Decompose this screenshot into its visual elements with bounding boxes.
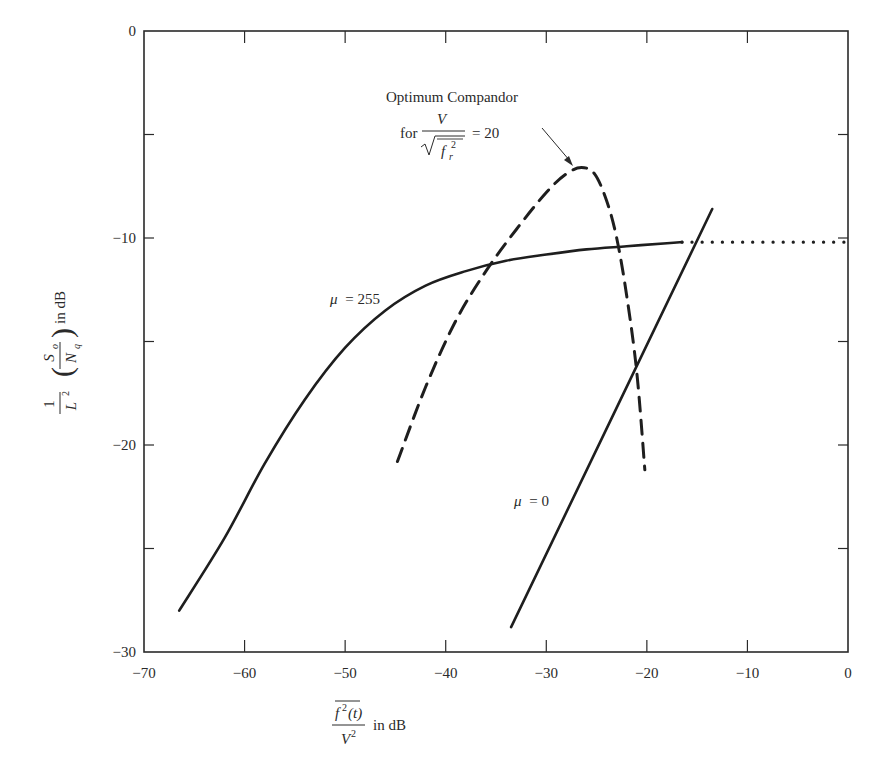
x-tick-label: −30 xyxy=(535,665,558,681)
left-paren: ( xyxy=(45,367,79,377)
x-tick-label: −20 xyxy=(635,665,658,681)
x-tick-label: 0 xyxy=(844,665,852,681)
y-tick-label: −20 xyxy=(113,437,136,453)
y-tick-label: 0 xyxy=(129,23,137,39)
svg-text:1: 1 xyxy=(41,400,57,408)
mu0-label: μ = 0 xyxy=(513,493,549,509)
svg-text:f: f xyxy=(441,143,447,159)
optimum-compandor-title: Optimum Compandor xyxy=(386,89,518,105)
svg-text:= 20: = 20 xyxy=(472,125,499,141)
svg-text:N: N xyxy=(63,352,79,364)
optimum-compandor-condition: for V f r 2 = 20 xyxy=(400,111,499,162)
data-series xyxy=(179,168,848,628)
mu255-label: μ = 255 xyxy=(329,291,380,307)
svg-text:f: f xyxy=(335,705,341,721)
svg-text:2: 2 xyxy=(451,139,456,150)
x-tick-label: −60 xyxy=(233,665,256,681)
svg-text:2: 2 xyxy=(342,702,347,713)
axis-tick-labels: −70−60−50−40−30−20−1000−10−20−30 xyxy=(113,23,852,681)
right-paren: ) xyxy=(45,328,79,338)
svg-text:q: q xyxy=(71,344,82,349)
y-tick-label: −30 xyxy=(113,644,136,660)
annotation-arrow xyxy=(542,128,573,166)
svg-text:o: o xyxy=(49,344,60,349)
svg-text:(t): (t) xyxy=(348,705,362,722)
x-tick-label: −10 xyxy=(736,665,759,681)
x-tick-label: −40 xyxy=(434,665,457,681)
svg-text:2: 2 xyxy=(351,728,356,739)
svg-text:2: 2 xyxy=(60,391,71,396)
svg-text:V: V xyxy=(437,111,448,127)
svg-text:S: S xyxy=(41,354,57,362)
y-tick-label: −10 xyxy=(113,230,136,246)
x-tick-label: −50 xyxy=(333,665,356,681)
svg-text:L: L xyxy=(63,402,79,411)
y-axis-label: 1 L 2 ( S o N q ) in dB xyxy=(41,291,82,414)
series-line-2 xyxy=(511,209,712,627)
chart: −70−60−50−40−30−20−1000−10−20−30 μ = 255… xyxy=(0,0,875,778)
svg-text:in dB: in dB xyxy=(373,717,406,733)
x-tick-label: −70 xyxy=(132,665,155,681)
svg-text:r: r xyxy=(449,151,453,162)
x-axis-label: f 2 (t) V 2 in dB xyxy=(332,701,406,747)
svg-text:for: for xyxy=(400,125,418,141)
svg-text:in dB: in dB xyxy=(52,291,68,324)
